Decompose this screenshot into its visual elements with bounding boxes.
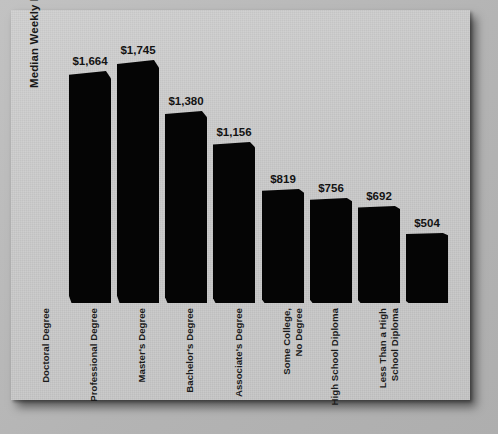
x-axis-label-text: Bachelor's Degree	[184, 308, 196, 393]
plot-area: $1,664$1,745$1,380$1,156$819$756$692$504	[69, 38, 448, 303]
bar[interactable]	[213, 142, 255, 303]
x-axis-label-text: Doctoral Degree	[40, 308, 52, 383]
chart-card: Median Weekly Earnings ($) $1,664$1,745$…	[11, 10, 470, 400]
bar-slot: $819	[262, 38, 304, 303]
x-axis-label-text: Associate's Degree	[233, 308, 245, 397]
x-axis-category-labels: Doctoral DegreeProfessional DegreeMaster…	[69, 308, 448, 412]
bar[interactable]	[165, 111, 207, 303]
x-axis-label: Less Than a HighSchool Diploma	[406, 308, 448, 408]
bar-value-label: $692	[346, 190, 412, 202]
bar-slot: $1,745	[117, 38, 159, 303]
x-axis-label-text: Master's Degree	[136, 308, 148, 383]
bar-value-label: $1,745	[105, 44, 171, 56]
bar[interactable]	[262, 189, 304, 303]
bar-value-label: $1,380	[153, 95, 219, 107]
x-axis-label-text: Professional Degree	[88, 308, 100, 402]
bar[interactable]	[310, 198, 352, 303]
bar-slot: $1,156	[213, 38, 255, 303]
bar-slot: $1,664	[69, 38, 111, 303]
page-background: Median Weekly Earnings ($) $1,664$1,745$…	[0, 0, 498, 434]
bar-value-label: $1,156	[201, 126, 267, 138]
x-axis-label-text: High School Diploma	[329, 308, 341, 405]
y-axis-title: Median Weekly Earnings ($)	[25, 0, 43, 88]
bar-slot: $504	[406, 38, 448, 303]
bar-slot: $692	[358, 38, 400, 303]
bar[interactable]	[406, 233, 448, 303]
bar[interactable]	[69, 71, 111, 303]
bar-slot: $1,380	[165, 38, 207, 303]
x-axis-label-text: Some College,No Degree	[281, 308, 304, 375]
bar-slot: $756	[310, 38, 352, 303]
x-axis-label-text: Less Than a HighSchool Diploma	[377, 308, 400, 388]
bar-value-label: $504	[394, 217, 460, 229]
bar-value-label: $1,664	[57, 55, 123, 67]
